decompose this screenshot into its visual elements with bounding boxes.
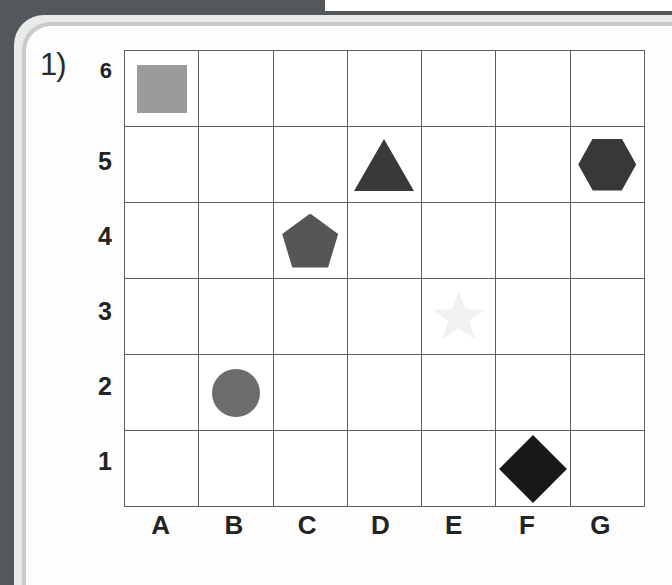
grid-cell-F2[interactable] <box>496 355 570 431</box>
column-label-D: D <box>344 510 417 541</box>
grid-cell-B1[interactable] <box>199 431 273 507</box>
grid-cell-A5[interactable] <box>125 127 199 203</box>
question-number: 1) <box>40 47 66 83</box>
row-label-2: 2 <box>84 372 112 401</box>
grid-cell-B4[interactable] <box>199 203 273 279</box>
grid-cell-E6[interactable] <box>422 51 496 127</box>
grid-row <box>125 51 645 127</box>
row-label-5: 5 <box>84 147 112 176</box>
hexagon-glyph <box>578 139 636 191</box>
grid-cell-A2[interactable] <box>125 355 199 431</box>
triangle-icon <box>348 127 421 202</box>
grid-cell-B6[interactable] <box>199 51 273 127</box>
row-label-1: 1 <box>84 447 112 476</box>
column-label-C: C <box>271 510 344 541</box>
grid-cell-B5[interactable] <box>199 127 273 203</box>
column-label-A: A <box>124 510 197 541</box>
grid-cell-E2[interactable] <box>422 355 496 431</box>
grid-cell-C6[interactable] <box>273 51 347 127</box>
square-glyph <box>137 65 187 113</box>
grid-cell-F6[interactable] <box>496 51 570 127</box>
grid-cell-G4[interactable] <box>570 203 644 279</box>
grid-cell-D2[interactable] <box>347 355 421 431</box>
grid-cell-D5[interactable] <box>347 127 421 203</box>
grid-cell-F3[interactable] <box>496 279 570 355</box>
top-backdrop-notch <box>325 0 672 11</box>
grid-cell-D6[interactable] <box>347 51 421 127</box>
grid-table <box>124 50 645 507</box>
grid-cell-E5[interactable] <box>422 127 496 203</box>
grid-cell-C3[interactable] <box>273 279 347 355</box>
grid-cell-B3[interactable] <box>199 279 273 355</box>
grid-row <box>125 431 645 507</box>
hexagon-icon <box>571 127 644 202</box>
column-label-G: G <box>564 510 637 541</box>
grid-cell-G1[interactable] <box>570 431 644 507</box>
grid-row <box>125 203 645 279</box>
grid-cell-F5[interactable] <box>496 127 570 203</box>
column-label-E: E <box>417 510 490 541</box>
grid-cell-E3[interactable] <box>422 279 496 355</box>
grid-cell-F4[interactable] <box>496 203 570 279</box>
grid-cell-A6[interactable] <box>125 51 199 127</box>
grid-cell-C4[interactable] <box>273 203 347 279</box>
pentagon-icon <box>274 203 347 278</box>
column-label-F: F <box>490 510 563 541</box>
grid-row <box>125 127 645 203</box>
circle-glyph <box>212 369 260 417</box>
diamond-glyph <box>499 435 567 503</box>
rectangle-icon <box>348 431 421 506</box>
grid-cell-G6[interactable] <box>570 51 644 127</box>
grid-row <box>125 355 645 431</box>
grid-cell-D1[interactable] <box>347 431 421 507</box>
worksheet-page: 1) 654321 ABCDEFG <box>0 0 672 585</box>
grid-cell-D4[interactable] <box>347 203 421 279</box>
circle-icon <box>199 355 272 430</box>
grid-cell-E4[interactable] <box>422 203 496 279</box>
grid-cell-G5[interactable] <box>570 127 644 203</box>
star-icon <box>422 279 495 354</box>
triangle-glyph <box>354 139 414 191</box>
grid-cell-G2[interactable] <box>570 355 644 431</box>
grid-cell-D3[interactable] <box>347 279 421 355</box>
grid-cell-A4[interactable] <box>125 203 199 279</box>
pentagon-glyph <box>282 214 338 268</box>
star-glyph <box>433 292 485 342</box>
row-label-4: 4 <box>84 222 112 251</box>
column-label-B: B <box>197 510 270 541</box>
square-icon <box>125 51 198 126</box>
grid-cell-F1[interactable] <box>496 431 570 507</box>
grid-row <box>125 279 645 355</box>
grid-cell-C1[interactable] <box>273 431 347 507</box>
grid-cell-C5[interactable] <box>273 127 347 203</box>
grid-cell-C2[interactable] <box>273 355 347 431</box>
diamond-icon <box>496 431 569 506</box>
grid-cell-B2[interactable] <box>199 355 273 431</box>
grid-cell-A1[interactable] <box>125 431 199 507</box>
coordinate-grid[interactable] <box>124 50 637 500</box>
row-label-6: 6 <box>84 58 112 84</box>
grid-cell-A3[interactable] <box>125 279 199 355</box>
row-label-3: 3 <box>84 297 112 326</box>
grid-cell-G3[interactable] <box>570 279 644 355</box>
grid-cell-E1[interactable] <box>422 431 496 507</box>
